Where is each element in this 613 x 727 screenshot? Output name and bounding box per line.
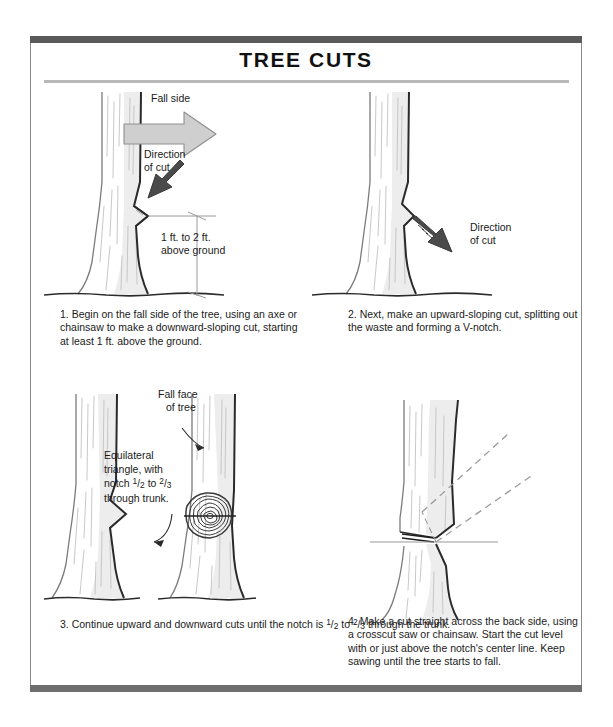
direction-of-cut-arrow (412, 216, 452, 252)
label-fall-side: Fall side (151, 92, 190, 104)
caption-step-1: 1. Begin on the fall side of the tree, u… (60, 308, 300, 348)
figure-step-4 (312, 386, 578, 626)
figure-step-3 (44, 386, 310, 626)
frame-top-bar (30, 36, 582, 43)
label-fall-face-line1: Fall face (158, 388, 198, 401)
panel-step-2: Direction of cut 2. Next, make an upward… (312, 86, 578, 386)
figure-step-1 (44, 86, 310, 316)
label-dimension-line2: above ground (161, 244, 225, 257)
figure-step-2 (312, 86, 578, 316)
label-equilateral-line3: notch 1/2 to 2/3 (104, 476, 200, 491)
label-equilateral-line4: through trunk. (104, 491, 200, 505)
title-divider (44, 80, 569, 83)
label-direction-of-cut-line1: Direction (144, 148, 185, 161)
label-direction-of-cut-line1: Direction (470, 221, 511, 234)
label-direction-of-cut-line2: of cut (144, 161, 185, 174)
label-equilateral-line1: Equilateral (104, 448, 200, 462)
label-dimension-line1: 1 ft. to 2 ft. (161, 231, 225, 244)
panel-step-4: 4. Make a cut straight across the back s… (312, 386, 578, 686)
label-direction-of-cut-line2: of cut (470, 234, 511, 247)
label-equilateral-line2: triangle, with (104, 462, 200, 476)
frame-bottom-bar (30, 685, 582, 692)
label-fall-face-line2: of tree (166, 401, 198, 414)
illustration-sheet: TREE CUTS (0, 0, 613, 727)
panel-step-1: Fall side Direction of cut 1 ft. to 2 ft… (44, 86, 310, 386)
panel-step-3: Fall face of tree Equilateral triangle, … (44, 386, 310, 686)
caption-step-4: 4. Make a cut straight across the back s… (348, 615, 578, 669)
caption-step-2: 2. Next, make an upward-sloping cut, spl… (348, 308, 578, 335)
page-title: TREE CUTS (30, 48, 582, 72)
caption-step-3: 3. Continue upward and downward cuts unt… (60, 618, 310, 632)
